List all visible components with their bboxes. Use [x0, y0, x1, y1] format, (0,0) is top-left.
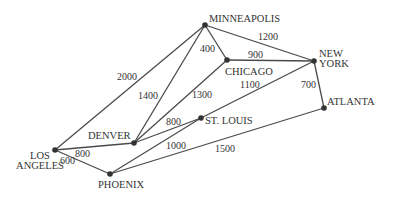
edge-weight-label: 1200	[258, 31, 278, 42]
edge-weight-label: 1000	[166, 140, 186, 151]
node-label-atlanta: ATLANTA	[327, 96, 375, 107]
edge-weight-label: 2000	[117, 71, 137, 82]
edge-weight-label: 800	[75, 148, 90, 159]
node-atlanta	[321, 105, 327, 111]
edge-weight-label: 700	[301, 79, 316, 90]
node-los-angeles	[52, 147, 58, 153]
node-chicago	[224, 57, 230, 63]
edge-weight-label: 400	[200, 43, 215, 54]
node-denver	[131, 140, 137, 146]
city-distance-graph: 2000140040012009001300110070080080060010…	[0, 0, 393, 197]
edge-weight-label: 1300	[192, 89, 212, 100]
node-label-phoenix: PHOENIX	[98, 179, 144, 190]
node-label-chicago: CHICAGO	[225, 66, 273, 77]
node-phoenix	[107, 171, 113, 177]
node-label-denver: DENVER	[88, 130, 131, 141]
node-new-york	[311, 58, 317, 64]
edge-weight-label: 1100	[240, 79, 260, 90]
edge-chicago-new-york	[227, 60, 314, 61]
edge-weight-label: 800	[166, 116, 181, 127]
node-label-new-york: NEWYORK	[319, 48, 349, 69]
node-label-st-louis: ST. LOUIS	[205, 115, 253, 126]
edge-los-angeles-denver	[55, 143, 134, 150]
edge-weight-label: 900	[248, 49, 263, 60]
edge-weight-label: 1500	[215, 143, 235, 154]
edge-phoenix-st-louis	[110, 118, 201, 174]
node-st-louis	[198, 115, 204, 121]
nodes-layer	[52, 22, 327, 177]
node-minneapolis	[202, 22, 208, 28]
edge-weight-label: 1400	[138, 90, 158, 101]
node-label-los-angeles: LOSANGELES	[16, 150, 64, 171]
node-label-minneapolis: MINNEAPOLIS	[209, 13, 280, 24]
edges-layer	[55, 25, 324, 174]
